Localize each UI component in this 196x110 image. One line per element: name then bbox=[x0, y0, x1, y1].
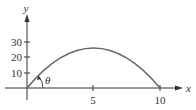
y-tick-label-30: 30 bbox=[11, 36, 23, 48]
y-tick-label-10: 10 bbox=[11, 67, 23, 79]
x-axis-arrow-icon bbox=[175, 86, 183, 91]
x-axis-label: x bbox=[185, 82, 191, 94]
trajectory-diagram: 10 20 30 5 10 y x θ bbox=[0, 0, 196, 110]
y-tick-label-20: 20 bbox=[11, 51, 23, 63]
x-tick-label-10: 10 bbox=[155, 94, 167, 106]
angle-label: θ bbox=[45, 74, 51, 86]
x-tick-label-5: 5 bbox=[90, 94, 96, 106]
y-axis-label: y bbox=[23, 2, 29, 14]
y-axis-arrow-icon bbox=[25, 14, 30, 22]
